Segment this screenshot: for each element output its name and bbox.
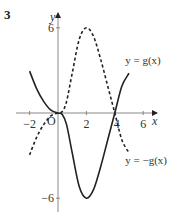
graph-figure: 3 −22466−6 x y O y = g(x) y = −g(x)	[0, 0, 169, 220]
curve-neg-g-label: y = −g(x)	[125, 154, 167, 167]
y-tick-label: −6	[41, 191, 54, 205]
x-tick-label: 6	[140, 117, 146, 131]
x-axis-label: x	[151, 114, 158, 128]
x-tick-label: −2	[23, 117, 36, 131]
curve-neg-g	[30, 28, 129, 155]
curve-g	[30, 71, 129, 198]
y-axis-label: y	[49, 10, 56, 24]
curve-g-label: y = g(x)	[125, 54, 161, 67]
origin-label: O	[47, 114, 56, 128]
question-number: 3	[4, 7, 11, 22]
x-tick-label: 2	[83, 117, 89, 131]
